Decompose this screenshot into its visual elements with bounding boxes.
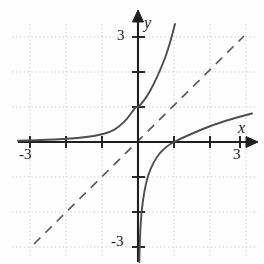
axes [18, 10, 258, 262]
logarithm-curve [139, 114, 252, 263]
exponential-curve [18, 24, 175, 141]
x-tick-label-negative-3: -3 [19, 147, 32, 162]
y-tick-label-positive-3: 3 [117, 28, 125, 43]
plot-canvas [0, 0, 264, 264]
y-axis-arrowhead [133, 10, 144, 22]
graph-figure: y x 3 -3 -3 3 [0, 0, 264, 264]
y-tick-label-negative-3: -3 [111, 234, 124, 249]
x-axis-arrowhead [246, 137, 258, 148]
y-axis-label: y [144, 15, 151, 31]
x-tick-label-positive-3: 3 [233, 147, 241, 162]
x-axis-label: x [238, 120, 245, 136]
